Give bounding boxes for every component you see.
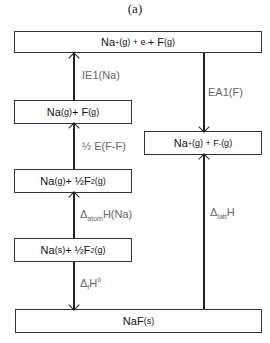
state: (s) [144, 316, 155, 326]
text: Na [41, 244, 55, 256]
level-gaseous-ions: Na+(g) + F-(g) [144, 131, 262, 155]
state: (g) [54, 176, 65, 186]
text: Na [174, 137, 188, 149]
text: (g) + F [192, 138, 219, 148]
text: NaF [123, 315, 144, 327]
text: + F [148, 36, 164, 48]
state: (g) [95, 176, 106, 186]
text: (g) + e [119, 37, 145, 47]
state: (g) [221, 138, 232, 148]
subscript: atom [87, 215, 103, 222]
figure-caption: (a) [0, 1, 270, 17]
level-naf-solid: NaF(s) [15, 309, 262, 333]
label-ea1: EA1(F) [208, 86, 243, 98]
text: + F [72, 106, 88, 118]
state: (g) [88, 107, 99, 117]
level-na-gas-half-f2: Na(g) + ½F2(g) [14, 169, 132, 193]
text: + ½F [65, 244, 90, 256]
text: Na [47, 106, 61, 118]
label-half-bond-energy: ½ E(F-F) [82, 140, 126, 152]
state: (s) [55, 245, 66, 255]
arrow-ea1-line [203, 53, 205, 131]
text: Na [101, 36, 115, 48]
text: Na [40, 175, 54, 187]
state: (g) [61, 107, 72, 117]
level-na-gas-f-gas: Na(g) + F(g) [14, 100, 132, 124]
label-formation: ΔfHo [80, 276, 101, 291]
state: (g) [164, 37, 175, 47]
text: + ½F [65, 175, 90, 187]
level-na-solid-half-f2: Na(s) + ½F2(g) [14, 238, 132, 262]
arrow-lattice-line [203, 155, 205, 309]
standard-symbol: o [97, 276, 101, 283]
level-na-ion-electron-f-atom: Na+(g) + e- + F(g) [14, 31, 262, 53]
text: H [227, 206, 235, 218]
subscript: latt [217, 213, 226, 220]
label-ie1: IE1(Na) [82, 69, 120, 81]
label-lattice: ΔlattH [210, 206, 235, 220]
state: (g) [94, 245, 105, 255]
text: H(Na) [103, 208, 132, 220]
label-atomisation: ΔatomH(Na) [80, 208, 132, 222]
